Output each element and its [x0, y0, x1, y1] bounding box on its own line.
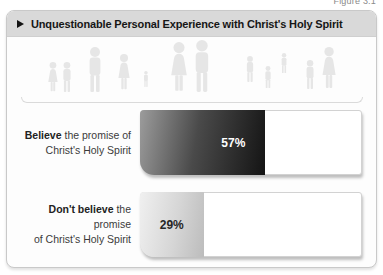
- bar-row-dont-believe: Don't believe the promise of Christ's Ho…: [17, 192, 362, 257]
- chart-title-bar: Unquestionable Personal Experience with …: [7, 11, 376, 37]
- bar-fill-dont-believe: 29%: [140, 192, 204, 257]
- bar-label-line1: Believe the promise of: [17, 128, 131, 143]
- person-woman-icon: [118, 54, 129, 89]
- bar-label-dont-believe: Don't believe the promise of Christ's Ho…: [17, 192, 140, 257]
- person-boy-icon: [265, 66, 270, 88]
- bar-track-dont-believe: 29%: [140, 192, 362, 257]
- person-woman-icon: [323, 47, 336, 88]
- person-child-icon: [282, 53, 287, 73]
- person-boy-icon: [247, 56, 253, 82]
- person-boy-icon: [307, 60, 314, 89]
- person-man-icon: [196, 40, 208, 92]
- bar-value-believe: 57%: [221, 136, 245, 150]
- crowd-underline: [21, 97, 363, 103]
- bar-row-believe: Believe the promise of Christ's Holy Spi…: [17, 110, 362, 175]
- chart-card: Unquestionable Personal Experience with …: [6, 10, 377, 268]
- person-man-icon: [90, 47, 101, 92]
- bar-label-believe: Believe the promise of Christ's Holy Spi…: [17, 110, 140, 175]
- bar-value-dont-believe: 29%: [160, 218, 184, 232]
- bar-chart: Believe the promise of Christ's Holy Spi…: [7, 110, 376, 268]
- chart-title: Unquestionable Personal Experience with …: [31, 18, 342, 30]
- person-child-icon: [144, 71, 148, 87]
- bar-label-line2: of Christ's Holy Spirit: [17, 232, 131, 247]
- person-girl-icon: [48, 62, 57, 91]
- person-boy-icon: [63, 62, 70, 92]
- person-woman-icon: [171, 42, 187, 91]
- bar-label-line2: Christ's Holy Spirit: [17, 143, 131, 158]
- bar-track-believe: 57%: [140, 110, 362, 175]
- bar-fill-believe: 57%: [140, 110, 265, 175]
- bar-label-line1: Don't believe the promise: [17, 202, 131, 231]
- crowd-illustration: [21, 39, 374, 96]
- figure-caption: Figure 3.1: [333, 0, 376, 6]
- crowd-figures: [21, 39, 374, 96]
- title-arrow-icon: [17, 20, 24, 28]
